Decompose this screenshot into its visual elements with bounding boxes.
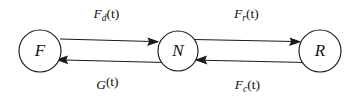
edge-label-n-to-r: Fr(t) — [210, 6, 275, 23]
edge-label-f-to-n-arg: (t) — [107, 6, 120, 21]
edge-label-f-to-n: Fd(t) — [70, 6, 136, 23]
node-r[interactable]: R — [299, 30, 341, 72]
edge-f-to-n — [60, 37, 160, 46]
flow-diagram: F N R Fd(t) G(t) Fr(t) Fc(t) — [0, 0, 348, 96]
node-n-label: N — [171, 41, 185, 60]
edge-r-to-n-line — [203, 60, 306, 62]
edge-n-to-r — [194, 37, 302, 46]
edge-n-to-r-line — [194, 40, 294, 42]
edge-r-to-n — [195, 56, 307, 65]
edge-label-n-to-f-base: G — [96, 77, 106, 92]
node-n[interactable]: N — [158, 31, 198, 71]
edge-label-r-to-n: Fc(t) — [211, 77, 277, 94]
edge-label-n-to-r-arg: (t) — [246, 6, 259, 21]
edge-n-to-f — [56, 55, 166, 64]
edge-f-to-n-line — [60, 39, 152, 42]
edge-label-n-to-f-arg: (t) — [106, 74, 119, 89]
edge-n-to-f-line — [64, 60, 165, 63]
edge-label-r-to-n-arg: (t) — [247, 77, 260, 92]
node-f-label: F — [34, 41, 46, 60]
edge-label-n-to-f: G(t) — [73, 74, 136, 92]
node-r-label: R — [314, 41, 326, 60]
diagram-canvas: F N R Fd(t) G(t) Fr(t) Fc(t) — [0, 0, 348, 96]
node-f[interactable]: F — [19, 30, 61, 72]
